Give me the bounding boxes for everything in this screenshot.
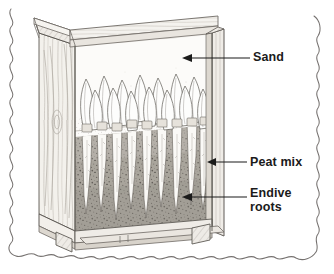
- crate-left-side-panel: [39, 33, 75, 231]
- callout-label-sand: Sand: [253, 50, 284, 64]
- callout-label-endive-line2: roots: [250, 200, 292, 214]
- callout-label-endive-line1: Endive: [250, 186, 292, 200]
- callout-label-endive-roots: Endiveroots: [250, 186, 292, 214]
- crate-foot-right: [192, 224, 210, 244]
- endive-forcing-box-drawing: [0, 0, 334, 274]
- illustration-figure: Sand Peat mix Endiveroots: [0, 0, 334, 274]
- callout-label-peat-mix: Peat mix: [250, 155, 302, 169]
